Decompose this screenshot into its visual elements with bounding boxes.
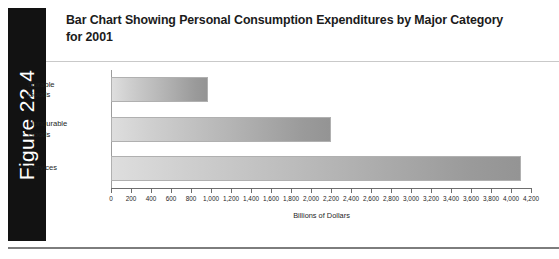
bar-row: Durable Goods [111,77,531,102]
x-axis-tick-label: 800 [186,195,197,202]
category-label: Services [28,163,100,174]
x-axis-line [111,188,532,189]
x-axis-tick-label: 1,000 [203,195,219,202]
x-axis-tick-label: 2,200 [323,195,339,202]
bar-row: Nondurable Goods [111,117,531,142]
x-axis-tick-label: 1,600 [263,195,279,202]
x-axis-tick-label: 0 [109,195,113,202]
x-axis-tick-label: 1,800 [283,195,299,202]
x-axis-tick-label: 4,000 [503,195,519,202]
x-axis-tick [511,189,512,193]
category-label: Nondurable Goods [28,119,100,140]
x-axis-tick [331,189,332,193]
x-axis-tick [211,189,212,193]
x-axis-tick-label: 3,200 [423,195,439,202]
bar [111,156,521,181]
x-axis-tick [451,189,452,193]
x-axis-tick [291,189,292,193]
x-axis-tick [271,189,272,193]
x-axis-tick-label: 1,200 [223,195,239,202]
x-axis-label: Billions of Dollars [111,211,532,220]
x-axis-tick [231,189,232,193]
category-label: Durable Goods [28,79,100,100]
x-axis-tick [531,189,532,193]
bar [111,117,331,142]
x-axis-tick-label: 2,600 [363,195,379,202]
plot-area: Durable GoodsNondurable GoodsServices [111,70,531,188]
x-axis-tick-label: 4,200 [523,195,539,202]
x-axis-tick [391,189,392,193]
x-axis-tick [491,189,492,193]
x-axis-tick [151,189,152,193]
x-axis-tick [471,189,472,193]
chart-title: Bar Chart Showing Personal Consumption E… [66,12,516,46]
x-axis-tick-label: 2,400 [343,195,359,202]
x-axis-tick [111,189,112,193]
x-axis-tick-label: 400 [146,195,157,202]
x-axis-tick-label: 600 [166,195,177,202]
x-axis-tick-label: 200 [126,195,137,202]
bar [111,77,208,102]
x-axis-tick-label: 1,400 [243,195,259,202]
x-axis-tick [131,189,132,193]
bottom-divider [8,247,559,249]
x-axis-tick-label: 2,800 [383,195,399,202]
bar-row: Services [111,156,531,181]
x-axis-tick [411,189,412,193]
x-axis-tick [251,189,252,193]
x-axis-tick [171,189,172,193]
figure-container: Figure 22.4 Bar Chart Showing Personal C… [0,0,559,259]
title-divider [46,61,559,62]
title-block: Bar Chart Showing Personal Consumption E… [66,12,516,46]
x-axis-tick [351,189,352,193]
x-axis-tick-label: 3,800 [483,195,499,202]
x-axis-tick-label: 2,000 [303,195,319,202]
x-axis-tick [371,189,372,193]
x-axis-tick [431,189,432,193]
x-axis-tick [191,189,192,193]
x-axis-tick-label: 3,000 [403,195,419,202]
x-axis-tick [311,189,312,193]
x-axis-tick-label: 3,600 [463,195,479,202]
x-axis-tick-label: 3,400 [443,195,459,202]
